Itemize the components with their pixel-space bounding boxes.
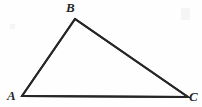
vertex-label-b: B (66, 1, 75, 14)
triangle-side-ca (22, 96, 188, 97)
triangle-outline (22, 19, 188, 97)
vertex-label-a: A (7, 89, 16, 102)
triangle-drawing-canvas (0, 0, 202, 107)
triangle-side-bc (75, 19, 188, 97)
triangle-figure: A B C (0, 0, 202, 107)
vertex-label-c: C (189, 90, 198, 103)
triangle-side-ab (22, 19, 75, 96)
